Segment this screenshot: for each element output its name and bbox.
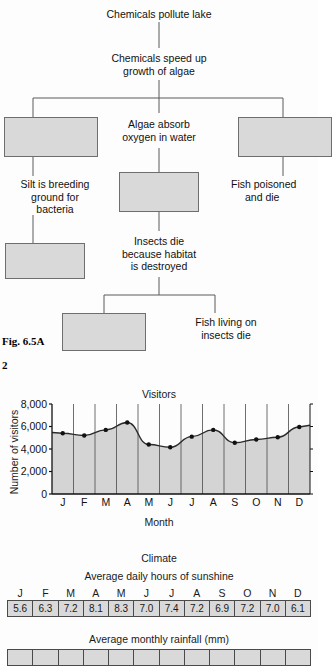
rainfall-value-cell [260, 650, 285, 666]
sunshine-value-cell: 7.2 [184, 601, 209, 617]
flow-node-chemicals-pollute: Chemicals pollute lake [0, 8, 318, 21]
chart-x-tick-label: M [144, 496, 153, 508]
visitors-chart: Visitors Number of visitors Month 02,000… [0, 388, 318, 533]
flow-node-text-line: Fish poisoned [231, 178, 335, 191]
figure-caption: Fig. 6.5A [2, 335, 44, 347]
chart-y-tick-label: 8,000 [21, 398, 47, 410]
chart-x-tick-label: F [81, 496, 87, 508]
flow-node-silt-breeding: Silt is breeding ground for bacteria [0, 178, 110, 216]
rainfall-value-cell [58, 650, 83, 666]
sunshine-month-header: J [159, 586, 184, 601]
rainfall-value-cell [210, 650, 235, 666]
chart-x-axis-label: Month [0, 516, 318, 528]
flow-node-text-line: and die [231, 191, 335, 204]
chart-x-tick-label: N [274, 496, 282, 508]
chart-y-tick-label: 4,000 [21, 443, 47, 455]
sunshine-value-cell: 7.2 [58, 601, 83, 617]
sunshine-month-header: O [235, 586, 260, 601]
climate-section-title: Climate [0, 552, 318, 564]
answer-box-left-top[interactable] [4, 117, 98, 157]
chart-y-tick-labels: 02,0004,0006,0008,000 [21, 398, 47, 500]
flow-node-text-line: ground for [0, 191, 110, 204]
rainfall-table-values-row [8, 650, 311, 666]
rainfall-value-cell [184, 650, 209, 666]
rainfall-table [7, 649, 311, 666]
flow-node-text-line: bacteria [0, 203, 110, 216]
flow-node-chemicals-speed-up: Chemicals speed up growth of algae [0, 52, 318, 77]
flow-node-text-line: is destroyed [94, 260, 224, 273]
flowchart-diagram: Chemicals pollute lake Chemicals speed u… [0, 0, 318, 355]
flow-node-text-line: Chemicals speed up [0, 52, 318, 65]
sunshine-table-header-row: JFMAMJJASOND [8, 586, 311, 601]
sunshine-month-header: M [109, 586, 134, 601]
sunshine-value-cell: 7.2 [235, 601, 260, 617]
sunshine-value-cell: 5.6 [8, 601, 33, 617]
flow-node-fish-poisoned: Fish poisoned and die [231, 178, 335, 203]
flow-node-text-line: insects die [176, 329, 276, 342]
rainfall-value-cell [285, 650, 310, 666]
sunshine-value-cell: 7.0 [134, 601, 159, 617]
chart-y-tick-label: 0 [41, 488, 47, 500]
sunshine-month-header: J [8, 586, 33, 601]
sunshine-table-title: Average daily hours of sunshine [0, 570, 318, 582]
chart-x-tick-label: S [231, 496, 238, 508]
rainfall-value-cell [109, 650, 134, 666]
chart-x-tick-label: J [168, 496, 173, 508]
flow-node-text: Chemicals pollute lake [106, 8, 211, 20]
flow-node-text-line: Algae absorb [99, 118, 219, 131]
flow-node-text-line: oxygen in water [99, 131, 219, 144]
rainfall-value-cell [33, 650, 58, 666]
chart-x-tick-label: O [252, 496, 260, 508]
rainfall-value-cell [134, 650, 159, 666]
flow-node-text-line: Silt is breeding [0, 178, 110, 191]
chart-y-tick-label: 6,000 [21, 420, 47, 432]
flow-node-text-line: Insects die [94, 235, 224, 248]
chart-plot-area: 02,0004,0006,0008,000 JFMAMJJASOND [0, 398, 318, 516]
flow-node-insects-die: Insects die because habitat is destroyed [94, 235, 224, 273]
sunshine-value-cell: 7.0 [260, 601, 285, 617]
flow-node-text-line: growth of algae [0, 65, 318, 78]
sunshine-value-cell: 7.4 [159, 601, 184, 617]
chart-x-tick-label: J [189, 496, 194, 508]
flow-node-algae-absorb: Algae absorb oxygen in water [99, 118, 219, 143]
sunshine-month-header: A [184, 586, 209, 601]
rainfall-value-cell [235, 650, 260, 666]
chart-x-tick-label: D [295, 496, 303, 508]
sunshine-value-cell: 8.1 [83, 601, 108, 617]
rainfall-table-title: Average monthly rainfall (mm) [0, 633, 318, 645]
flow-node-fish-living-on-insects: Fish living on insects die [176, 316, 276, 341]
sunshine-table-values-row: 5.66.37.28.18.37.07.47.26.97.27.06.1 [8, 601, 311, 617]
chart-x-tick-label: M [101, 496, 110, 508]
flow-node-text-line: Fish living on [176, 316, 276, 329]
chart-x-tick-labels: JFMAMJJASOND [60, 496, 303, 508]
answer-box-center-mid[interactable] [119, 172, 199, 212]
sunshine-value-cell: 6.1 [285, 601, 310, 617]
sunshine-value-cell: 6.9 [210, 601, 235, 617]
sunshine-month-header: N [260, 586, 285, 601]
sunshine-month-header: S [210, 586, 235, 601]
rainfall-value-cell [83, 650, 108, 666]
rainfall-value-cell [159, 650, 184, 666]
sunshine-value-cell: 8.3 [109, 601, 134, 617]
sunshine-month-header: J [134, 586, 159, 601]
sunshine-table: JFMAMJJASOND 5.66.37.28.18.37.07.47.26.9… [7, 586, 311, 617]
sunshine-month-header: F [33, 586, 58, 601]
sunshine-month-header: A [83, 586, 108, 601]
chart-y-tick-label: 2,000 [21, 465, 47, 477]
sunshine-month-header: M [58, 586, 83, 601]
rainfall-value-cell [8, 650, 33, 666]
chart-x-tick-label: J [60, 496, 65, 508]
answer-box-bottom[interactable] [62, 313, 146, 351]
answer-box-left-lower[interactable] [5, 243, 85, 279]
flow-node-text-line: because habitat [94, 248, 224, 261]
answer-box-right-top[interactable] [238, 117, 332, 157]
sunshine-month-header: D [285, 586, 310, 601]
question-number: 2 [2, 359, 8, 371]
chart-x-tick-label: A [124, 496, 131, 508]
chart-x-tick-label: A [210, 496, 217, 508]
sunshine-value-cell: 6.3 [33, 601, 58, 617]
